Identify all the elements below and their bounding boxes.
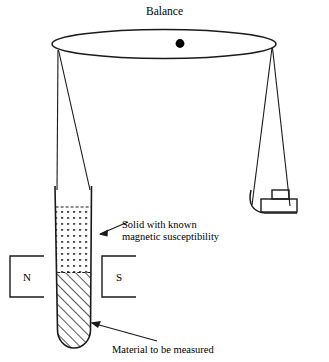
figure-title: Balance [146,5,183,17]
material-measured-label: Material to be measured [112,344,214,355]
diagram-canvas: Balance N S [0,0,329,362]
counterweight-base [261,199,297,212]
left-string-outer [57,50,58,190]
solid-known-label-line2: magnetic susceptibility [122,231,220,242]
material-measured-arrowhead [91,321,102,328]
counterweight-top [272,190,289,199]
pivot-point [176,39,185,48]
left-string-inner [59,50,91,190]
north-pole-label: N [23,271,31,283]
south-pole-label: S [116,271,122,283]
gouy-balance-diagram: Balance N S [0,0,329,362]
material-measured-leader-line [92,323,157,341]
balance-beam-ellipse [52,30,276,59]
right-string-outer [252,48,272,205]
solid-known-label-line1: Solid with known [122,219,197,230]
solid-known-arrowhead [99,230,108,237]
right-string-inner [273,48,291,206]
